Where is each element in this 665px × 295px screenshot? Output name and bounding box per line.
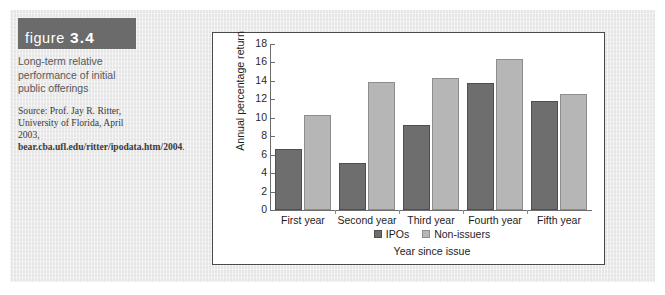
- plot-area: [271, 44, 591, 210]
- bar-non-issuers-4: [560, 94, 587, 210]
- y-axis-tick-label: 2: [233, 186, 267, 197]
- x-axis-category-label: First year: [271, 214, 335, 226]
- x-axis-category-label: Fifth year: [527, 214, 591, 226]
- figure-banner-label: figure: [25, 30, 65, 46]
- figure-source-note: Source: Prof. Jay R. Ritter, University …: [18, 105, 142, 154]
- y-axis-tick-label-wrap: 16: [229, 62, 267, 63]
- figure-number-banner: figure3.4: [18, 18, 136, 49]
- bar-non-issuers-0: [304, 115, 331, 210]
- legend-label: Non-issuers: [434, 228, 490, 240]
- bar-ipos-0: [275, 149, 302, 210]
- x-axis-line: [270, 210, 592, 211]
- x-axis-category-label: Third year: [399, 214, 463, 226]
- y-axis-tick-label-wrap: 2: [229, 192, 267, 193]
- y-axis-tick-label: 14: [233, 75, 267, 86]
- y-axis-tick-label: 6: [233, 149, 267, 160]
- y-axis-tick-label: 8: [233, 130, 267, 141]
- source-prefix: Source: Prof. Jay R. Ritter, University …: [18, 105, 124, 140]
- x-axis-title: Year since issue: [271, 245, 593, 257]
- legend-label: IPOs: [386, 228, 409, 240]
- y-axis-tick-label-wrap: 12: [229, 99, 267, 100]
- legend-swatch-icon: [422, 230, 430, 238]
- y-axis-tick: [271, 210, 275, 211]
- chart-panel: Annual percentage return 024681012141618…: [212, 32, 605, 265]
- bar-ipos-3: [467, 83, 494, 210]
- bar-non-issuers-2: [432, 78, 459, 210]
- x-axis-category-label: Fourth year: [463, 214, 527, 226]
- y-axis-tick-label-wrap: 6: [229, 155, 267, 156]
- chart-legend: IPOsNon-issuers: [271, 228, 593, 240]
- source-suffix: .: [182, 141, 184, 152]
- y-axis-tick-label-wrap: 18: [229, 44, 267, 45]
- y-axis-title: Annual percentage return: [234, 11, 246, 171]
- figure-caption-title: Long-term relative performance of initia…: [18, 55, 138, 96]
- y-axis-tick-label: 18: [233, 38, 267, 49]
- bar-non-issuers-3: [496, 59, 523, 210]
- y-axis-tick-label-wrap: 8: [229, 136, 267, 137]
- y-axis-tick-label-wrap: 10: [229, 118, 267, 119]
- x-axis-group-separator: [335, 210, 336, 214]
- y-axis-tick-label: 10: [233, 112, 267, 123]
- x-axis-category-label: Second year: [335, 214, 399, 226]
- y-axis-tick-label-wrap: 4: [229, 173, 267, 174]
- bar-ipos-2: [403, 125, 430, 210]
- y-axis-tick-label-wrap: 14: [229, 81, 267, 82]
- y-axis-tick-label-wrap: 0: [229, 210, 267, 211]
- figure-banner-number: 3.4: [70, 29, 95, 46]
- legend-swatch-icon: [374, 230, 382, 238]
- figure-container: figure3.4 Long-term relative performance…: [0, 0, 665, 295]
- source-url: bear.cba.ufl.edu/ritter/ipodata.htm/2004: [18, 141, 182, 152]
- y-axis-tick-label: 4: [233, 167, 267, 178]
- figure-banner-text: figure3.4: [25, 29, 95, 47]
- x-axis-group-separator: [399, 210, 400, 214]
- bar-ipos-4: [531, 101, 558, 210]
- y-axis-tick-label: 16: [233, 56, 267, 67]
- figure-caption-block: figure3.4 Long-term relative performance…: [18, 18, 150, 153]
- bar-non-issuers-1: [368, 82, 395, 210]
- legend-item-non-issuers: Non-issuers: [422, 228, 490, 240]
- bar-ipos-1: [339, 163, 366, 210]
- x-axis-group-separator: [463, 210, 464, 214]
- y-axis-tick-label: 0: [233, 204, 267, 215]
- x-axis-group-separator: [527, 210, 528, 214]
- legend-item-ipos: IPOs: [374, 228, 409, 240]
- y-axis-tick-label: 12: [233, 93, 267, 104]
